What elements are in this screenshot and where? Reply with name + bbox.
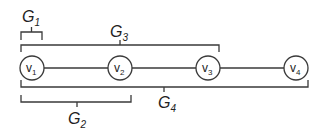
group-g4-bracket <box>21 80 308 92</box>
group-g4-label: G <box>158 94 170 111</box>
svg-text:G3: G3 <box>110 23 128 43</box>
node-v3-subscript: 3 <box>208 68 213 77</box>
group-g4: G4 <box>21 80 308 114</box>
node-v2: v2 <box>108 56 132 80</box>
group-g1-subscript: 1 <box>34 17 40 28</box>
node-v2-subscript: 2 <box>120 68 125 77</box>
group-g1: G1 <box>21 8 42 40</box>
svg-text:G1: G1 <box>22 8 40 28</box>
group-g3-label: G <box>110 23 122 40</box>
group-g2-label: G <box>68 110 80 127</box>
group-g2: G2 <box>21 95 131 130</box>
group-g3: G3 <box>21 23 219 52</box>
node-v3: v3 <box>196 56 220 80</box>
group-g3-bracket <box>21 40 219 52</box>
node-v1: v1 <box>20 56 44 80</box>
node-v4: v4 <box>284 56 308 80</box>
svg-text:G2: G2 <box>68 110 86 130</box>
group-g4-subscript: 4 <box>170 103 176 114</box>
group-g3-subscript: 3 <box>122 32 128 43</box>
group-g1-bracket <box>21 27 42 40</box>
node-v1-subscript: 1 <box>32 68 37 77</box>
subgraph-bracket-diagram: v1 v2 v3 v4 G1 G3 G4 G2 <box>0 0 325 136</box>
node-v4-subscript: 4 <box>296 68 301 77</box>
group-g2-subscript: 2 <box>79 119 86 130</box>
svg-text:G4: G4 <box>158 94 176 114</box>
group-g1-label: G <box>22 8 34 25</box>
group-g2-bracket <box>21 95 131 107</box>
